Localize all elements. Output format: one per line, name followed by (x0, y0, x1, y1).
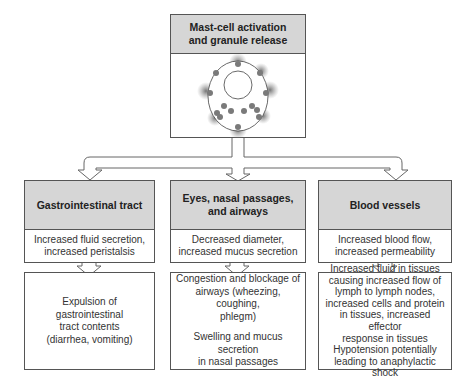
airways-outcome-text-1: Congestion and blockage ofairways (wheez… (175, 273, 301, 323)
gi-tract-effect: Increased fluid secretion,increased peri… (24, 229, 155, 263)
gi-tract-header: Gastrointestinal tract (24, 180, 155, 230)
airways-header: Eyes, nasal passages, and airways (170, 180, 306, 230)
airways-outcome-text-2: Swelling and mucus secretionin nasal pas… (175, 331, 301, 369)
gi-tract-outcome: Expulsion of gastrointestinaltract conte… (24, 272, 155, 370)
mast-cell-title-line2: and granule release (189, 34, 288, 47)
split-arrow-connector (78, 137, 408, 181)
mast-cell-title-line1: Mast-cell activation (189, 21, 288, 34)
blood-vessels-header: Blood vessels (318, 180, 452, 230)
blood-outcome-text: Increased fluid in tissuescausing increa… (323, 263, 447, 379)
mast-cell-header: Mast-cell activation and granule release (171, 15, 305, 54)
nucleus (224, 71, 252, 99)
mast-cell-box: Mast-cell activation and granule release (170, 14, 306, 138)
blood-vessels-outcome: Increased fluid in tissuescausing increa… (318, 272, 452, 370)
airways-effect: Decreased diameter,increased mucus secre… (170, 229, 306, 263)
blood-vessels-effect: Increased blood flow,increased permeabil… (318, 229, 452, 263)
airways-outcome: Congestion and blockage ofairways (wheez… (170, 272, 306, 370)
gi-outcome-text: Expulsion of gastrointestinaltract conte… (29, 296, 150, 346)
mast-cell-degranulation-icon (171, 54, 305, 138)
